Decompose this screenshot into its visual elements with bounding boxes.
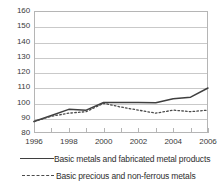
series-line-1 <box>34 88 208 122</box>
legend-key-solid-line-icon <box>20 154 54 164</box>
line-chart: 1601501401301201101009080 19961998200020… <box>0 0 222 188</box>
legend-item-precious-metals: Basic precious and non-ferrous metals <box>0 167 222 184</box>
legend-label-basic-metals: Basic metals and fabricated metal produc… <box>54 154 210 164</box>
legend-label-precious-metals: Basic precious and non-ferrous metals <box>56 171 196 181</box>
legend: Basic metals and fabricated metal produc… <box>0 150 222 184</box>
legend-key-dashed-line-icon <box>22 171 56 181</box>
legend-item-basic-metals: Basic metals and fabricated metal produc… <box>0 150 222 167</box>
